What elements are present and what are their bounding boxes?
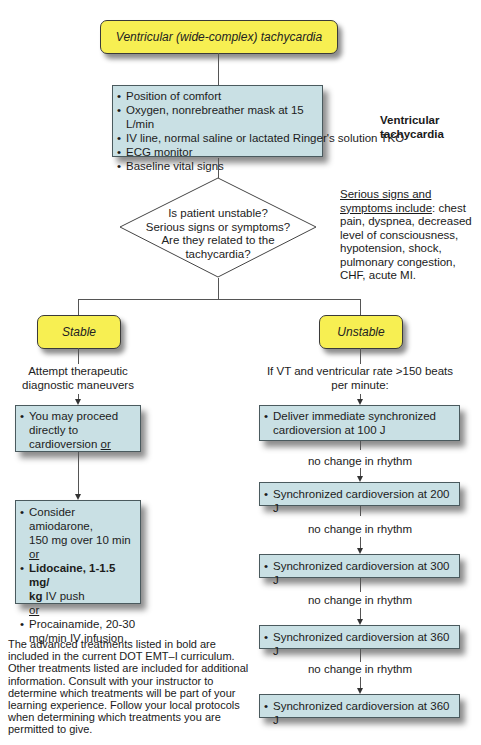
initial-care-box: Position of comfort Oxygen, nonrebreathe… [112,85,323,157]
connector [218,53,219,85]
connector [78,299,79,315]
connector [360,441,361,450]
initial-care-item: IV line, normal saline or lactated Ringe… [117,131,318,145]
connector [218,278,219,299]
transition-label: no change in rhythm [300,593,420,607]
side-label: Ventricular tachycardia [380,113,460,141]
connector [360,649,361,662]
transition-label: no change in rhythm [300,662,420,676]
connector [360,537,361,548]
stable-cardioversion-box: You may proceed directly to cardioversio… [15,405,141,452]
cardioversion-step-5: Synchronized cardioversion at 360 J [259,694,460,718]
cardioversion-step-2: Synchronized cardioversion at 200 J [259,482,460,506]
connector [218,158,219,178]
decision-text: Is patient unstable? Serious signs or sy… [140,207,296,261]
connector [360,677,361,688]
connector [360,506,361,516]
connector [360,468,361,476]
connector [360,348,361,364]
stable-box: Stable [37,315,121,349]
cardioversion-step-1: Deliver immediate synchronized cardiover… [259,405,460,441]
initial-care-item: Oxygen, nonrebreather mask at 15 L/min [117,103,318,131]
transition-label: no change in rhythm [300,522,420,536]
unstable-condition: If VT and ventricular rate >150 beats pe… [265,364,455,392]
connector [360,578,361,592]
initial-care-item: Position of comfort [117,89,318,103]
connector [360,608,361,619]
branch-connector [78,299,360,300]
serious-signs-note: Serious signs and symptoms include: ches… [340,188,480,283]
initial-care-item: ECG monitor [117,145,318,159]
unstable-box: Unstable [319,315,403,349]
cardioversion-step-3: Synchronized cardioversion at 300 J [259,554,460,578]
title-text: Ventricular (wide-complex) tachycardia [116,30,322,44]
connector [78,452,79,494]
stable-medication-box: Consider amiodarone, 150 mg over 10 min … [15,500,141,604]
title-box: Ventricular (wide-complex) tachycardia [100,20,338,54]
stable-maneuvers: Attempt therapeutic diagnostic maneuvers [18,364,138,392]
connector [360,299,361,315]
connector [78,348,79,364]
cardioversion-step-4: Synchronized cardioversion at 360 J [259,625,460,649]
footnote: The advanced treatments listed in bold a… [8,638,248,736]
transition-label: no change in rhythm [300,454,420,468]
